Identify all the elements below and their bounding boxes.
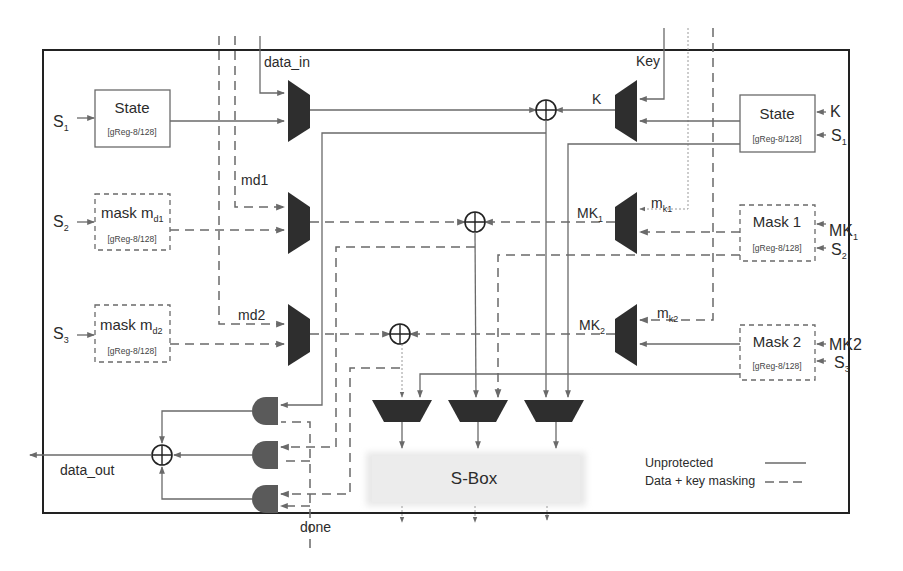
- mask-md2-register: mask md2 [gReg-8/128]: [95, 305, 170, 362]
- mk2-input-line: [640, 28, 713, 320]
- state-register-right: State [gReg-8/128]: [740, 95, 815, 152]
- svg-text:[gReg-8/128]: [gReg-8/128]: [752, 243, 801, 253]
- svg-text:State: State: [759, 105, 794, 122]
- svg-text:Mask 2: Mask 2: [753, 333, 801, 350]
- sbox-block: S-Box: [366, 452, 586, 506]
- mask1-register: Mask 1 [gReg-8/128]: [740, 205, 815, 261]
- s2-right-label: S2: [831, 241, 847, 261]
- svg-text:[gReg-8/128]: [gReg-8/128]: [752, 134, 801, 144]
- k-right-label: K: [830, 103, 841, 120]
- svg-text:[gReg-8/128]: [gReg-8/128]: [107, 127, 156, 137]
- and-gate-1: [252, 397, 278, 425]
- mask2-to-sbox-mux1: [420, 374, 740, 397]
- masked-aes-diagram: data_in Key State [gReg-8/128] mask md1 …: [0, 0, 903, 571]
- s1-left-label: S1: [53, 113, 69, 133]
- md2-label: md2: [238, 307, 265, 323]
- legend-unprotected-label: Unprotected: [645, 456, 713, 470]
- key-mux-1: [615, 80, 637, 142]
- state-right-to-sbox-mux3: [568, 144, 740, 397]
- svg-text:[gReg-8/128]: [gReg-8/128]: [107, 346, 156, 356]
- mask-md1-register: mask md1 [gReg-8/128]: [95, 194, 170, 250]
- svg-text:[gReg-8/128]: [gReg-8/128]: [752, 361, 801, 371]
- mk2-input-label: mk2: [657, 305, 678, 324]
- mk2-label: MK2: [579, 317, 605, 336]
- mk1-input-label: mk1: [651, 195, 672, 214]
- s2-left-label: S2: [53, 213, 69, 233]
- k-label: K: [592, 91, 602, 107]
- sbox-mux-2: [448, 400, 508, 422]
- md1-label: md1: [241, 172, 268, 188]
- mk2-right-label: MK2: [829, 336, 862, 353]
- and3-to-xor-out: [162, 467, 252, 499]
- mk1-right-label: MK1: [829, 222, 858, 242]
- svg-text:Mask 1: Mask 1: [753, 213, 801, 230]
- s3-left-label: S3: [53, 325, 69, 345]
- and1-to-xor-out: [162, 411, 252, 443]
- and-gate-3: [252, 485, 278, 513]
- data-in-label: data_in: [264, 54, 310, 70]
- svg-text:State: State: [114, 99, 149, 116]
- data-out-label: data_out: [60, 462, 115, 478]
- xor1-to-and1: [281, 133, 546, 405]
- sbox-label: S-Box: [451, 469, 498, 488]
- mask2-register: Mask 2 [gReg-8/128]: [740, 325, 815, 380]
- svg-text:[gReg-8/128]: [gReg-8/128]: [107, 234, 156, 244]
- xor2-to-and2: [281, 247, 475, 447]
- legend-masked-label: Data + key masking: [645, 474, 755, 488]
- key-mux-2: [615, 192, 637, 254]
- mk1-label: MK1: [577, 205, 603, 224]
- state-register-left: State [gReg-8/128]: [95, 90, 170, 147]
- key-label: Key: [636, 53, 660, 69]
- s3-right-label: S3: [834, 354, 850, 374]
- data-mux-3: [288, 304, 310, 366]
- data-mux-2: [288, 192, 310, 254]
- done-label: done: [300, 519, 331, 535]
- sbox-mux-1: [372, 400, 432, 422]
- sbox-mux-3: [524, 400, 584, 422]
- s1-right-label: S1: [831, 127, 847, 147]
- legend: Unprotected Data + key masking: [645, 456, 807, 488]
- xor2-to-sbox-mux2: [475, 232, 476, 397]
- data-mux-1: [288, 80, 310, 142]
- key-mux-3: [615, 304, 637, 366]
- and-gate-2: [252, 441, 278, 469]
